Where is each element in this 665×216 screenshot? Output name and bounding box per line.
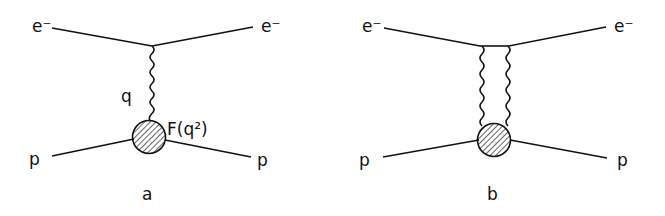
caption-b: b (487, 184, 498, 204)
photon-wavy-line-2 (506, 46, 510, 126)
proton-out-line (165, 140, 251, 157)
form-factor-blob (133, 121, 166, 154)
photon-wavy-line-1 (480, 46, 484, 126)
proton-in-label: p (359, 150, 370, 170)
caption-a: a (142, 184, 152, 204)
electron-out-line (509, 27, 606, 46)
electron-out-label: e⁻ (261, 16, 280, 36)
proton-in-line (52, 139, 134, 156)
proton-out-line (510, 140, 607, 158)
electron-out-line (152, 27, 253, 46)
electron-in-label: e⁻ (362, 16, 381, 36)
electron-in-line (384, 28, 480, 46)
electron-in-line (52, 28, 152, 46)
electron-in-label: e⁻ (32, 16, 51, 36)
proton-out-label: p (617, 150, 628, 170)
electron-out-label: e⁻ (614, 16, 633, 36)
proton-in-label: p (29, 149, 40, 169)
proton-out-label: p (257, 150, 268, 170)
diagram-a: e⁻ e⁻ q F(q²) p p a (29, 16, 280, 204)
feynman-diagrams-figure: e⁻ e⁻ q F(q²) p p a e⁻ e⁻ p p b (0, 0, 665, 216)
diagram-b: e⁻ e⁻ p p b (359, 16, 633, 204)
hadronic-blob (478, 124, 511, 157)
photon-label: q (121, 86, 132, 106)
photon-wavy-line (149, 46, 154, 121)
proton-in-line (383, 140, 479, 157)
form-factor-label: F(q²) (167, 119, 208, 139)
